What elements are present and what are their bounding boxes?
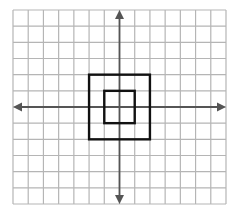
arrow-up-icon <box>115 10 124 19</box>
arrow-left-icon <box>13 103 22 112</box>
arrow-right-icon <box>217 103 226 112</box>
coordinate-grid-diagram <box>0 0 235 214</box>
arrow-down-icon <box>115 195 124 204</box>
axes <box>13 10 226 204</box>
